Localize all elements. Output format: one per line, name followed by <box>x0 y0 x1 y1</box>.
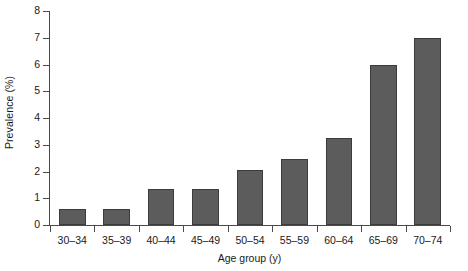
y-axis-tick <box>43 91 49 92</box>
x-axis-tick <box>228 226 229 232</box>
bar <box>414 38 441 225</box>
plot-area <box>50 11 450 225</box>
x-axis-tick <box>183 226 184 232</box>
x-axis-tick-label: 40–44 <box>139 234 183 247</box>
x-axis-tick-label: 35–39 <box>94 234 138 247</box>
x-axis-tick-label: 55–59 <box>272 234 316 247</box>
y-axis-tick <box>43 65 49 66</box>
x-axis-tick-label: 30–34 <box>50 234 94 247</box>
x-axis-tick <box>94 226 95 232</box>
y-axis-tick-label: 4 <box>18 112 40 123</box>
y-axis-tick-label: 0 <box>18 219 40 230</box>
bar <box>281 159 308 225</box>
y-axis-tick-label: 1 <box>18 192 40 203</box>
x-axis-title: Age group (y) <box>49 251 450 265</box>
bar <box>103 209 130 225</box>
y-axis-title: Prevalence (%) <box>0 0 18 225</box>
y-axis-tick-label: 6 <box>18 59 40 70</box>
bar <box>192 189 219 225</box>
y-axis-tick <box>43 118 49 119</box>
x-axis-tick <box>361 226 362 232</box>
y-axis-tick-label: 7 <box>18 32 40 43</box>
y-axis-tick-label: 3 <box>18 139 40 150</box>
bar <box>370 65 397 226</box>
x-axis-tick-label: 45–49 <box>183 234 227 247</box>
x-axis-tick <box>450 226 451 232</box>
x-axis-tick-label: 65–69 <box>361 234 405 247</box>
y-axis-tick-label: 2 <box>18 166 40 177</box>
y-axis-tick <box>43 198 49 199</box>
x-axis-tick <box>317 226 318 232</box>
x-axis-tick <box>50 226 51 232</box>
x-axis-tick-label: 70–74 <box>406 234 450 247</box>
y-axis-tick <box>43 11 49 12</box>
bar <box>59 209 86 225</box>
y-axis-tick <box>43 225 49 226</box>
y-axis-tick <box>43 172 49 173</box>
x-axis-tick <box>139 226 140 232</box>
x-axis-line <box>49 225 450 226</box>
bar <box>148 189 175 225</box>
y-axis-tick-label: 5 <box>18 85 40 96</box>
bar <box>326 138 353 225</box>
bar-chart: Prevalence (%) Age group (y) 01234567830… <box>0 0 468 271</box>
x-axis-tick <box>406 226 407 232</box>
x-axis-tick-label: 60–64 <box>317 234 361 247</box>
bar <box>237 170 264 225</box>
x-axis-tick-label: 50–54 <box>228 234 272 247</box>
y-axis-tick-label: 8 <box>18 5 40 16</box>
y-axis-tick <box>43 145 49 146</box>
x-axis-tick <box>272 226 273 232</box>
y-axis-tick <box>43 38 49 39</box>
